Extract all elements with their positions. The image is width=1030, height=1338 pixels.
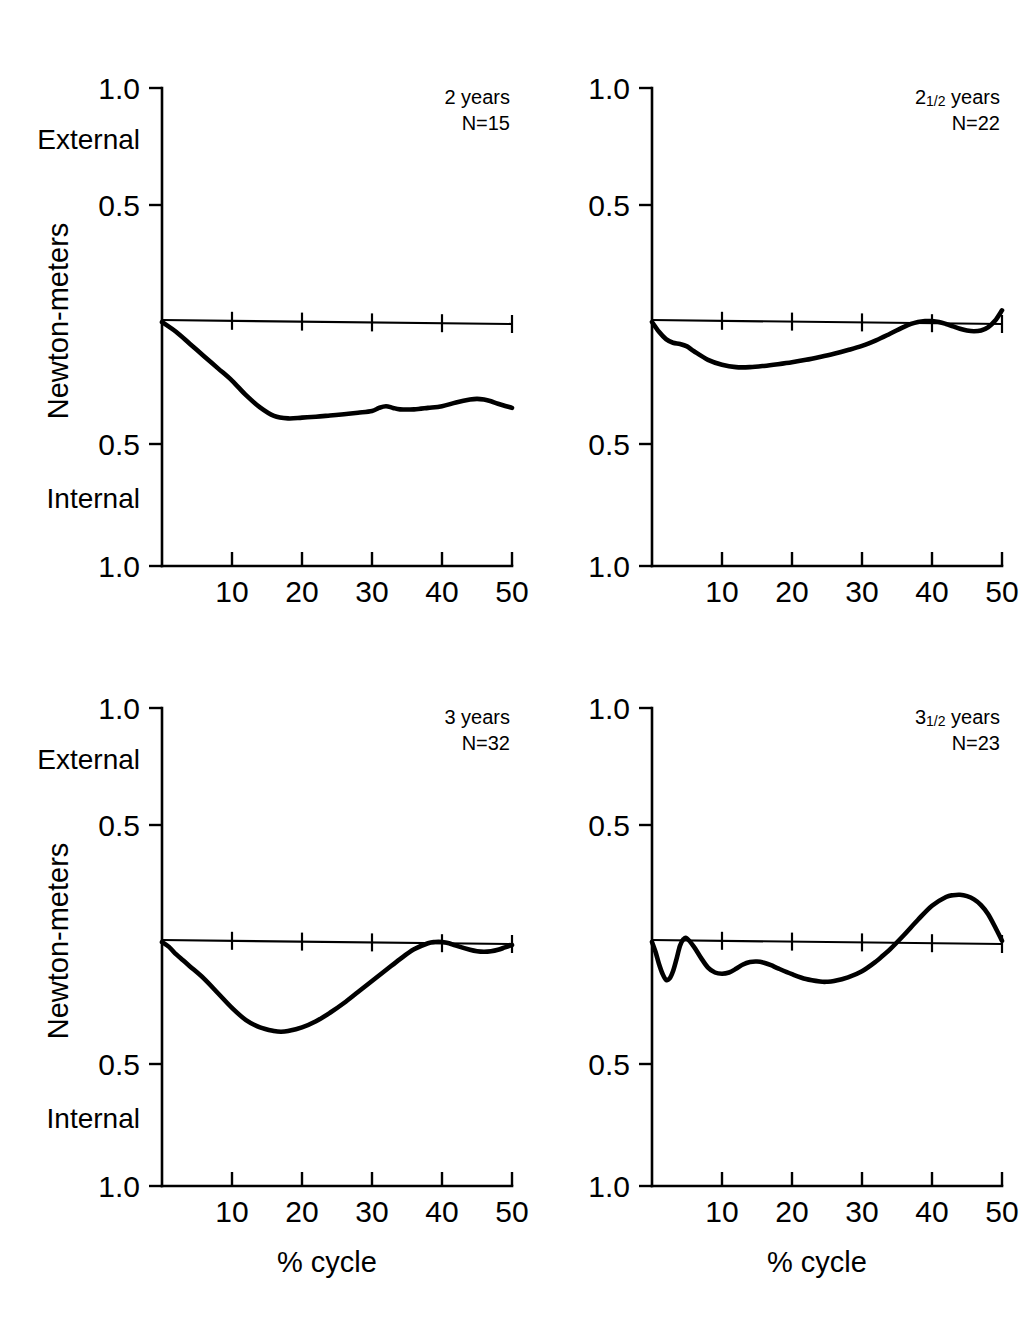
chart-panel-3-years: 1.00.50.51.01020304050ExternalInternalNe… — [10, 660, 510, 1260]
panel-sample-size-label: N=23 — [952, 732, 1000, 754]
chart-panel-2-5-years: 1.00.50.51.0102030405021/2 yearsN=22 — [500, 40, 1000, 640]
x-axis-tick-label: 20 — [285, 575, 318, 608]
x-axis-tick-label: 30 — [355, 1195, 388, 1228]
y-axis-tick-label: 0.5 — [588, 1048, 630, 1081]
x-axis-tick-label: 10 — [705, 1195, 738, 1228]
y-axis-tick-label: 1.0 — [98, 72, 140, 105]
y-axis-title: Newton-meters — [42, 843, 74, 1040]
figure-four-panel-chart: 1.00.50.51.01020304050ExternalInternalNe… — [0, 0, 1030, 1338]
x-axis-tick-label: 40 — [915, 1195, 948, 1228]
data-curve — [162, 942, 512, 1032]
external-direction-label: External — [37, 124, 140, 155]
x-axis-tick-label: 40 — [425, 575, 458, 608]
y-axis-tick-label: 1.0 — [588, 692, 630, 725]
external-direction-label: External — [37, 744, 140, 775]
x-axis-tick-label: 20 — [775, 1195, 808, 1228]
chart-panel-2-years: 1.00.50.51.01020304050ExternalInternalNe… — [10, 40, 510, 640]
panel-sample-size-label: N=22 — [952, 112, 1000, 134]
y-axis-tick-label: 0.5 — [588, 809, 630, 842]
zero-reference-line — [162, 940, 512, 944]
internal-direction-label: Internal — [47, 483, 140, 514]
y-axis-tick-label: 0.5 — [98, 1048, 140, 1081]
y-axis-tick-label: 0.5 — [588, 189, 630, 222]
x-axis-tick-label: 40 — [915, 575, 948, 608]
x-axis-title: % cycle — [767, 1246, 867, 1278]
y-axis-tick-label: 0.5 — [98, 189, 140, 222]
panel-age-label: 21/2 years — [915, 86, 1000, 109]
x-axis-tick-label: 20 — [285, 1195, 318, 1228]
y-axis-tick-label: 1.0 — [588, 1170, 630, 1203]
y-axis-tick-label: 1.0 — [588, 550, 630, 583]
y-axis-tick-label: 0.5 — [588, 428, 630, 461]
x-axis-tick-label: 20 — [775, 575, 808, 608]
internal-direction-label: Internal — [47, 1103, 140, 1134]
x-axis-tick-label: 10 — [705, 575, 738, 608]
y-axis-tick-label: 1.0 — [98, 692, 140, 725]
panel-age-label: 31/2 years — [915, 706, 1000, 729]
y-axis-tick-label: 1.0 — [588, 72, 630, 105]
x-axis-tick-label: 40 — [425, 1195, 458, 1228]
x-axis-tick-label: 30 — [355, 575, 388, 608]
data-curve — [652, 895, 1002, 982]
zero-reference-line — [162, 320, 512, 324]
x-axis-tick-label: 30 — [845, 1195, 878, 1228]
data-curve — [162, 322, 512, 418]
x-axis-title: % cycle — [277, 1246, 377, 1278]
x-axis-tick-label: 10 — [215, 575, 248, 608]
x-axis-tick-label: 30 — [845, 575, 878, 608]
y-axis-tick-label: 0.5 — [98, 428, 140, 461]
x-axis-tick-label: 50 — [985, 575, 1018, 608]
y-axis-title: Newton-meters — [42, 223, 74, 420]
chart-panel-3-5-years: 1.00.50.51.01020304050% cycle31/2 yearsN… — [500, 660, 1000, 1260]
data-curve — [652, 310, 1002, 367]
y-axis-tick-label: 1.0 — [98, 1170, 140, 1203]
zero-reference-line — [652, 940, 1002, 944]
x-axis-tick-label: 50 — [985, 1195, 1018, 1228]
y-axis-tick-label: 0.5 — [98, 809, 140, 842]
x-axis-tick-label: 10 — [215, 1195, 248, 1228]
y-axis-tick-label: 1.0 — [98, 550, 140, 583]
